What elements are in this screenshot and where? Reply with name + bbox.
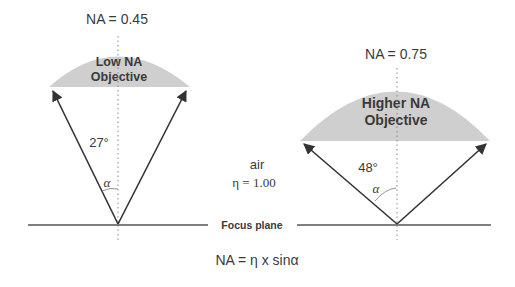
right-alpha-label: α (373, 181, 381, 196)
focus-plane-label: Focus plane (221, 219, 282, 231)
left-alpha-label: α (104, 175, 112, 190)
medium-name: air (250, 157, 265, 172)
medium-index: η = 1.00 (232, 175, 275, 190)
high-na-lens-label-line2: Objective (364, 112, 427, 128)
low-na-lens-label-line2: Objective (91, 70, 147, 84)
left-angle-label: 27° (89, 135, 109, 150)
high-na-group: NA = 0.75 Higher NA Objective 48° α (300, 46, 490, 240)
na-diagram: NA = 0.45 Low NA Objective 27° α air η =… (0, 0, 515, 287)
left-ray-arrow (53, 91, 118, 224)
right-angle-label: 48° (358, 160, 378, 175)
right-ray-arrow (397, 144, 486, 224)
right-ray-arrow (118, 91, 186, 224)
low-na-group: NA = 0.45 Low NA Objective 27° α (49, 11, 190, 240)
na-formula: NA = η x sinα (215, 252, 298, 268)
low-na-lens-label-line1: Low NA (96, 55, 143, 69)
high-na-lens-label-line1: Higher NA (362, 95, 430, 111)
left-na-label: NA = 0.45 (86, 11, 148, 27)
left-ray-arrow (304, 144, 397, 224)
right-na-label: NA = 0.75 (365, 46, 427, 62)
